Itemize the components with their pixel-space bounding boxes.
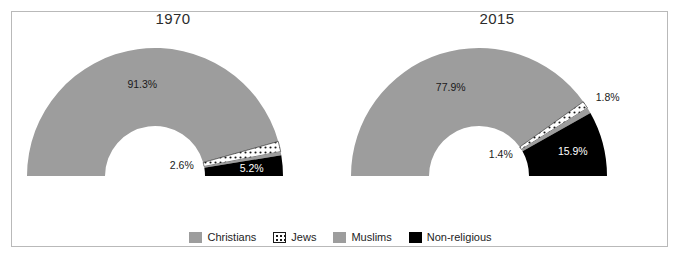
legend-item-christians: Christians xyxy=(189,231,256,243)
legend-item-jews: Jews xyxy=(273,231,316,243)
chart-figure: 1970 91.3%5.2%2.6% 2015 77.9%15.9%1.8%1.… xyxy=(0,0,681,260)
legend-swatch-muslims-icon xyxy=(333,232,346,243)
legend-label-jews: Jews xyxy=(291,231,316,243)
half-donut-1970: 91.3%5.2%2.6% xyxy=(8,0,338,225)
slice-value-label: 77.9% xyxy=(436,81,466,93)
legend-swatch-nonreligious-icon xyxy=(409,232,422,243)
half-donut-2015: 77.9%15.9%1.8%1.4% xyxy=(332,0,662,225)
slice-value-label: 1.4% xyxy=(489,148,513,160)
legend-label-muslims: Muslims xyxy=(351,231,391,243)
legend-item-nonreligious: Non-religious xyxy=(409,231,492,243)
legend-label-nonreligious: Non-religious xyxy=(427,231,492,243)
legend-label-christians: Christians xyxy=(207,231,256,243)
panel-2015: 2015 77.9%15.9%1.8%1.4% xyxy=(332,0,662,225)
slice-value-label: 1.8% xyxy=(596,91,620,103)
panel-1970: 1970 91.3%5.2%2.6% xyxy=(8,0,338,225)
legend-swatch-jews-icon xyxy=(273,232,286,243)
legend-item-muslims: Muslims xyxy=(333,231,391,243)
slice-value-label: 91.3% xyxy=(127,78,157,90)
legend-swatch-christians-icon xyxy=(189,232,202,243)
slice-value-label: 5.2% xyxy=(240,162,264,174)
slice-value-label: 2.6% xyxy=(170,159,194,171)
chart-legend: Christians Jews Muslims Non-religious xyxy=(0,226,681,248)
slice-value-label: 15.9% xyxy=(558,145,588,157)
